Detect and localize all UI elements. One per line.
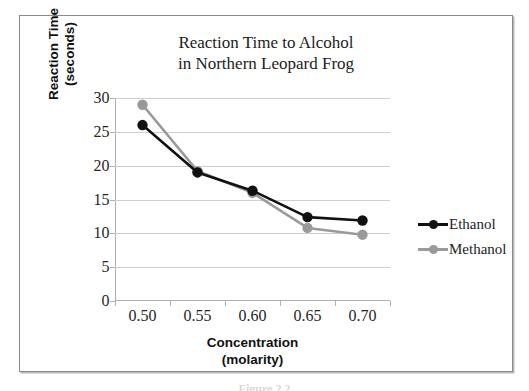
x-axis-title-line-2: (molarity) <box>115 351 390 368</box>
x-axis-title: Concentration (molarity) <box>115 334 390 368</box>
data-point <box>137 100 147 110</box>
legend-item-ethanol: Ethanol <box>418 212 507 237</box>
y-tick-label: 5 <box>102 258 110 276</box>
x-tick-mark <box>390 301 391 306</box>
x-tick-label: 0.70 <box>349 307 377 325</box>
x-tick-label: 0.55 <box>184 307 212 325</box>
figure-caption: Figure 2.2 <box>0 383 529 391</box>
chart-title-line-1: Reaction Time to Alcohol <box>20 32 512 53</box>
x-tick-label: 0.50 <box>129 307 157 325</box>
legend-label-methanol: Methanol <box>449 241 507 258</box>
y-axis-title-line-1: Reaction Time <box>46 0 62 134</box>
legend-marker-methanol <box>418 244 448 256</box>
y-tick-label: 10 <box>94 224 110 242</box>
data-point <box>302 212 312 222</box>
series-line <box>143 125 363 220</box>
data-point <box>302 223 312 233</box>
chart-legend: Ethanol Methanol <box>418 212 507 262</box>
chart-title: Reaction Time to Alcohol in Northern Leo… <box>20 32 512 74</box>
y-axis-title: Reaction Time (seconds) <box>46 0 78 134</box>
x-axis-title-line-1: Concentration <box>115 334 390 351</box>
x-tick-mark <box>280 301 281 306</box>
y-axis-title-line-2: (seconds) <box>62 0 78 134</box>
series-line <box>143 105 363 235</box>
series-plot <box>115 98 390 301</box>
y-tick-label: 30 <box>94 89 110 107</box>
x-tick-label: 0.60 <box>239 307 267 325</box>
x-tick-mark <box>335 301 336 306</box>
data-point <box>357 229 367 239</box>
data-point <box>137 120 147 130</box>
y-tick-label: 25 <box>94 123 110 141</box>
x-tick-mark <box>225 301 226 306</box>
legend-marker-ethanol <box>418 219 448 231</box>
chart-title-line-2: in Northern Leopard Frog <box>20 53 512 74</box>
x-tick-mark <box>115 301 116 306</box>
legend-label-ethanol: Ethanol <box>449 216 496 233</box>
y-tick-label: 15 <box>94 191 110 209</box>
y-tick-label: 20 <box>94 157 110 175</box>
data-point <box>192 167 202 177</box>
data-point <box>357 215 367 225</box>
figure-frame: Reaction Time to Alcohol in Northern Leo… <box>19 15 513 372</box>
plot-area: 051015202530 0.500.550.600.650.70 <box>115 98 390 301</box>
legend-item-methanol: Methanol <box>418 237 507 262</box>
y-tick-label: 0 <box>102 292 110 310</box>
x-tick-mark <box>170 301 171 306</box>
x-tick-label: 0.65 <box>294 307 322 325</box>
data-point <box>247 186 257 196</box>
